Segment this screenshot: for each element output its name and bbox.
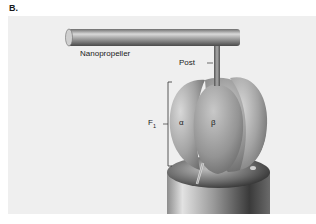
alpha-label: α xyxy=(179,118,184,127)
nanopropeller-label: Nanopropeller xyxy=(80,49,130,58)
post-rod xyxy=(214,44,220,86)
f1-atpase-diagram xyxy=(0,0,316,224)
beta-label: β xyxy=(211,118,216,127)
f1-label: F1 xyxy=(148,118,156,129)
f1-label-subscript: 1 xyxy=(153,123,156,129)
post-label: Post xyxy=(179,58,195,67)
nanopropeller-bar xyxy=(66,29,241,46)
